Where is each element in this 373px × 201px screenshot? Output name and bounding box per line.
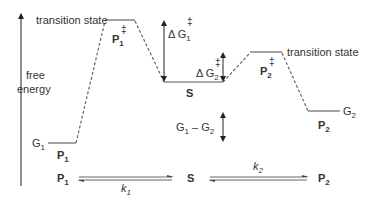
delta-g2-label: Δ G2 bbox=[196, 67, 219, 82]
s-ts2-path bbox=[223, 53, 250, 82]
equilibrium-arrows-2 bbox=[208, 175, 309, 182]
g2-label: G2 bbox=[343, 105, 357, 120]
energy-diagram: free energy transit bbox=[0, 0, 373, 201]
delta-g1-label: Δ G1 bbox=[168, 28, 191, 43]
p1-name: P1 bbox=[57, 149, 69, 164]
delta-g1-dagger: ‡ bbox=[187, 16, 193, 27]
axis-label-line1: free bbox=[26, 69, 45, 81]
p1-ts1-path bbox=[76, 21, 105, 143]
delta-g1-arrow bbox=[161, 20, 167, 82]
ts2-label: transition state bbox=[287, 46, 359, 58]
ts1-name: P1 bbox=[112, 33, 124, 48]
g1-g2-arrow bbox=[220, 112, 226, 142]
eq-p2: P2 bbox=[318, 172, 330, 187]
ts2-name: P2 bbox=[260, 65, 272, 80]
eq-s: S bbox=[187, 172, 194, 184]
ts1-label: transition state bbox=[36, 14, 108, 26]
delta-g2-dagger: ‡ bbox=[215, 57, 221, 68]
k1-label: k1 bbox=[121, 182, 131, 197]
ts1-s-path bbox=[135, 21, 164, 82]
k2-label: k2 bbox=[253, 160, 264, 175]
g1-label: G1 bbox=[32, 137, 46, 152]
s-label: S bbox=[186, 87, 193, 99]
ts2-p2-path bbox=[282, 53, 308, 111]
p2-name: P2 bbox=[318, 119, 330, 134]
eq-p1: P1 bbox=[57, 172, 69, 187]
delta-g2-arrow bbox=[220, 52, 226, 82]
equilibrium-arrows-1 bbox=[77, 175, 174, 182]
axis-label-line2: energy bbox=[17, 83, 51, 95]
g1-minus-g2-label: G1 – G2 bbox=[176, 121, 215, 136]
ts2-dagger: ‡ bbox=[269, 56, 275, 67]
ts1-dagger: ‡ bbox=[121, 24, 127, 35]
